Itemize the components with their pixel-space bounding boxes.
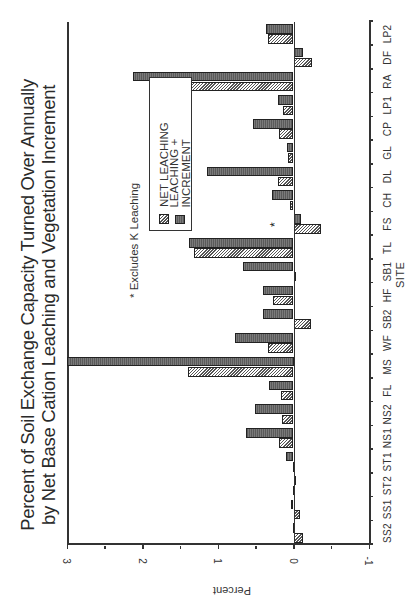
site-tick [369, 544, 373, 546]
value-minor-tick [255, 546, 257, 549]
chart-rotated-stage: Percent of Soil Exchange Capacity Turned… [0, 0, 415, 610]
value-tick-label: 0 [288, 551, 299, 571]
value-tick-label: 3 [61, 551, 72, 571]
bar-leaching-increment [263, 286, 293, 296]
site-tick [369, 448, 373, 450]
site-tick [369, 234, 373, 236]
value-tick [369, 545, 371, 549]
value-tick-label: 1 [212, 551, 223, 571]
bar-net-leaching [188, 367, 294, 377]
bar-net-leaching [194, 248, 294, 258]
hatch-swatch-icon [159, 214, 169, 224]
legend: NET LEACHING LEACHING + INCREMENT [149, 77, 192, 231]
bar-net-leaching [294, 224, 321, 234]
bar-net-leaching [283, 106, 294, 116]
bar-net-leaching [294, 58, 312, 68]
bar-net-leaching [279, 438, 293, 448]
value-tick-label: 2 [137, 551, 148, 571]
legend-label: LEACHING + INCREMENT [168, 78, 192, 208]
site-tick [369, 92, 373, 94]
value-tick-label: -1 [363, 551, 374, 571]
bar-leaching-increment [269, 381, 294, 391]
site-tick [369, 211, 373, 213]
x-axis-title: SITE [394, 262, 406, 288]
site-tick [369, 44, 373, 46]
bar-leaching-increment [253, 119, 293, 129]
site-tick [369, 425, 373, 427]
bar-net-leaching [294, 319, 311, 329]
bar-leaching-increment [272, 191, 294, 201]
bar-leaching-increment [243, 262, 294, 272]
site-tick [369, 520, 373, 522]
site-tick [369, 306, 373, 308]
bar-net-leaching [273, 296, 293, 306]
site-tick [369, 258, 373, 260]
footnote: * Excludes K Leaching [128, 183, 140, 298]
bar-net-leaching [268, 343, 294, 353]
bar-leaching-increment [255, 404, 294, 414]
site-tick [369, 187, 373, 189]
site-tick [369, 496, 373, 498]
chart-title-line-1: Percent of Soil Exchange Capacity Turned… [17, 0, 38, 610]
bar-leaching-increment [263, 309, 293, 319]
site-tick [369, 21, 373, 23]
dark-swatch-icon [175, 215, 185, 224]
site-tick [369, 353, 373, 355]
value-tick [293, 545, 295, 549]
site-tick [369, 163, 373, 165]
bar-leaching-increment [207, 167, 294, 177]
bar-net-leaching [279, 129, 293, 139]
bar-leaching-increment [286, 452, 294, 462]
plot-area: NET LEACHING LEACHING + INCREMENT * Excl… [67, 22, 369, 545]
site-tick [369, 68, 373, 70]
bar-leaching-increment [246, 428, 294, 438]
value-tick [218, 545, 220, 549]
bar-leaching-increment [278, 95, 293, 105]
bar-net-leaching [281, 391, 294, 401]
value-tick [67, 545, 69, 549]
y-axis-title: Percent [213, 585, 251, 597]
bar-leaching-increment [235, 333, 293, 343]
bar-net-leaching [268, 34, 294, 44]
bar-net-leaching [282, 415, 293, 425]
site-label: LP2 [382, 19, 393, 49]
bar-leaching-increment [266, 24, 294, 34]
bar-leaching-increment [189, 238, 294, 248]
chart-title-line-2: by Net Base Cation Leaching and Vegetati… [38, 0, 59, 610]
site-tick [369, 282, 373, 284]
site-tick [369, 377, 373, 379]
value-minor-tick [331, 546, 333, 549]
site-tick [369, 330, 373, 332]
site-tick [369, 401, 373, 403]
bar-net-leaching [278, 177, 294, 187]
value-tick [142, 545, 144, 549]
site-tick [369, 116, 373, 118]
site-tick [369, 139, 373, 141]
legend-item-leaching-increment: LEACHING + INCREMENT [173, 78, 187, 224]
site-tick [369, 472, 373, 474]
plot-frame-top [67, 22, 69, 545]
value-minor-tick [104, 546, 106, 549]
annotation-asterisk: * [268, 222, 282, 227]
bar-leaching-increment [67, 357, 294, 367]
zero-line [294, 22, 296, 545]
value-minor-tick [180, 546, 182, 549]
